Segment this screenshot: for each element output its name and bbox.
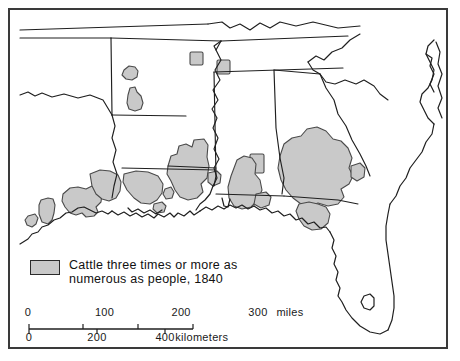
shaded-area-georgia-east-nub (351, 163, 365, 181)
shaded-area-texas-gulf-coast (39, 198, 55, 224)
border-tennessee-north (221, 36, 348, 41)
shaded-area-middle-tennessee-county (190, 52, 203, 65)
coastline-northcarolina (420, 40, 434, 124)
border-kentucky-north (208, 22, 360, 30)
scale-km-tick-400: 400 (155, 331, 174, 343)
shaded-cattle-areas (25, 52, 365, 230)
scale-miles-tick-0: 0 (25, 306, 31, 318)
scale-miles-unit: miles (276, 306, 303, 318)
border-red-river (20, 92, 112, 115)
lake-okeechobee (361, 294, 374, 310)
scale-km-tick-200: 200 (87, 331, 106, 343)
border-tennessee-northcarolina (308, 34, 360, 62)
shaded-area-texas-coastal-strip (25, 214, 38, 227)
coastline-mobile-bay (222, 198, 230, 207)
shaded-area-louisiana-florida-parishes (123, 171, 163, 204)
shaded-area-mississippi-coast-bit (163, 187, 174, 199)
border-missouri-north (20, 24, 208, 30)
map-figure: Cattle three times or more as numerous a… (0, 0, 460, 361)
border-kentucky-west (214, 41, 221, 50)
scale-bar-graphic (28, 320, 258, 330)
coastline-florida-east (386, 204, 394, 330)
coastline-georgia-southcarolina (390, 124, 434, 204)
scale-kilometers-labels: 0 200 400 kilometers (28, 331, 258, 344)
border-carolinas (308, 62, 388, 100)
coastline-outer-banks (436, 42, 442, 118)
scale-km-tick-0: 0 (26, 331, 32, 343)
shaded-area-arkansas-north-patch (122, 66, 138, 80)
map-canvas (8, 8, 448, 349)
scale-miles-tick-300: 300 (248, 306, 267, 318)
shaded-area-florida-panhandle (296, 202, 330, 230)
shaded-area-alabama-florida-joint (254, 192, 271, 208)
scale-miles-tick-200: 200 (172, 306, 191, 318)
scale-miles-tick-100: 100 (95, 306, 114, 318)
border-louisiana-north (112, 115, 186, 116)
border-arkansas-north (111, 38, 221, 41)
legend-label: Cattle three times or more as numerous a… (69, 259, 237, 286)
shaded-area-arkansas-south-patch (127, 87, 143, 111)
legend: Cattle three times or more as numerous a… (30, 259, 237, 286)
shaded-area-south-georgia-wiregrass (278, 127, 353, 206)
scale-bar: 0 100 200 300 miles 0 200 (28, 306, 258, 344)
shaded-area-swatch-icon (30, 260, 60, 275)
border-arkansas-west (111, 38, 112, 115)
coastline-florida-west (330, 232, 388, 334)
scale-miles-labels: 0 100 200 300 miles (28, 306, 258, 319)
scale-km-unit: kilometers (175, 331, 228, 343)
